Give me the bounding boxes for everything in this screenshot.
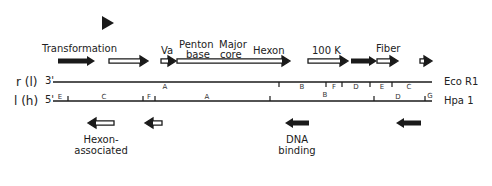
label-transformation: Transformation <box>42 44 117 54</box>
hpa-1-fragment-e: E <box>58 94 62 101</box>
bottom-gene-arrow-2 <box>285 118 309 128</box>
top-gene-arrow-0 <box>58 56 95 66</box>
top-gene-arrow-3-head <box>282 56 290 66</box>
label-hexon: Hexon <box>253 46 285 56</box>
label-penton-line2: base <box>186 50 210 60</box>
map-graphics <box>0 0 492 186</box>
top-gene-arrow-5 <box>351 56 377 66</box>
top-gene-arrow-7-head <box>424 56 432 66</box>
l-strand-label: l (h) <box>14 95 38 107</box>
eco-r1-fragment-f: F <box>332 84 336 91</box>
label-100k: 100 K <box>312 46 341 56</box>
label-fiber: Fiber <box>376 44 400 54</box>
eco-r1-fragment-d: D <box>353 84 358 91</box>
hpa-1-fragment-c: C <box>102 94 107 101</box>
hpa-1-cut-sites <box>68 96 425 101</box>
hpa-1-fragment-a: A <box>205 94 210 101</box>
top-gene-arrows <box>58 56 432 66</box>
r-strand-prime: 3' <box>45 76 54 86</box>
top-gene-arrow-6-head <box>390 56 398 66</box>
eco-r1-fragment-a: A <box>163 84 168 91</box>
hpa-1-fragment-b: B <box>323 92 328 99</box>
bottom-gene-arrow-0-head <box>88 118 96 128</box>
top-gene-arrow-1-head <box>140 56 148 66</box>
bottom-gene-label-2: DNAbinding <box>278 134 315 156</box>
bottom-gene-label-0: Hexon-associated <box>74 134 128 156</box>
top-gene-arrow-4-head <box>340 56 348 66</box>
label-major-line2: core <box>220 50 242 60</box>
label-va: Va <box>161 46 173 56</box>
marker-triangle-icon <box>102 16 114 30</box>
bottom-gene-arrow-3 <box>396 118 421 128</box>
hpa-1-label: Hpa 1 <box>444 96 474 106</box>
top-gene-arrow-2-head <box>168 56 176 66</box>
bottom-gene-arrows <box>88 118 421 128</box>
hpa-1-fragment-d: D <box>395 94 400 101</box>
hpa-1-fragment-f: F <box>147 94 151 101</box>
eco-r1-fragment-b: B <box>300 84 305 91</box>
gene-map-figure: Transformation Va Penton base Major core… <box>0 0 492 186</box>
l-strand-prime: 5' <box>45 95 54 105</box>
eco-r1-fragment-e: E <box>380 84 384 91</box>
bottom-gene-arrow-1-head <box>145 118 153 128</box>
eco-r1-fragment-c: C <box>407 84 412 91</box>
eco-r1-label: Eco R1 <box>444 77 478 87</box>
r-strand-label: r (l) <box>16 76 37 88</box>
hpa-1-fragment-g: G <box>427 93 432 100</box>
